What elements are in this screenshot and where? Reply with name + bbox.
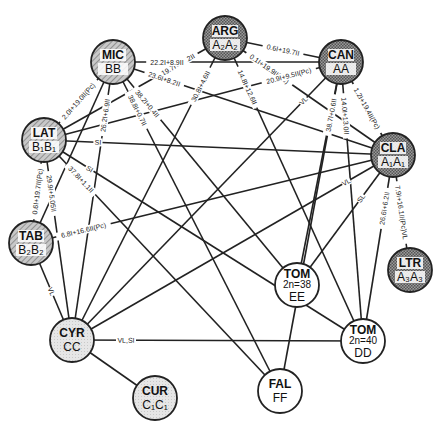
svg-text:VL: VL [47, 286, 57, 297]
edge-label: 7.9I+16.1II(Pc)VL [392, 181, 410, 245]
edge-label: SI [93, 138, 103, 146]
svg-text:SI: SI [94, 139, 101, 146]
svg-text:14.8I+12.6II: 14.8I+12.6II [236, 69, 258, 106]
node-fal: FALFF [258, 369, 302, 413]
edge-label: 26.2I+6.9II [98, 94, 112, 136]
svg-text:FF: FF [273, 391, 288, 405]
svg-text:LAT: LAT [33, 126, 56, 140]
svg-text:EE: EE [289, 290, 305, 304]
edge-label: SL [355, 192, 367, 204]
svg-text:VL,SI: VL,SI [117, 337, 134, 344]
svg-text:TAB: TAB [19, 229, 43, 243]
svg-text:A₃A₃: A₃A₃ [397, 270, 423, 284]
edge-label: SI [84, 163, 96, 175]
node-cyr: CYRCC [50, 318, 94, 362]
edge-label-layer: 0.6I+19.7II0.1I+19.9II(Pc)14.8I+12.6II19… [30, 42, 410, 344]
node-lat: LATB₁B₁ [22, 118, 66, 162]
svg-text:2n=40: 2n=40 [349, 335, 378, 346]
svg-text:DD: DD [354, 346, 372, 360]
edge-cyr-tom_dd [72, 340, 363, 341]
svg-text:AA: AA [333, 62, 349, 76]
edge-label: 1.2I+19.4II(Pc) [349, 82, 384, 135]
svg-text:CAN: CAN [328, 48, 354, 62]
node-tab: TABB₂B₂ [9, 221, 53, 265]
svg-text:0.6I+19.7II: 0.6I+19.7II [266, 43, 300, 57]
svg-text:2.0I+19.0II(Pc): 2.0I+19.0II(Pc) [61, 81, 98, 121]
node-mic: MICBB [91, 40, 135, 84]
edge-label: 2.0I+19.0II(Pc) [57, 77, 100, 125]
svg-text:14.0I+13.0II: 14.0I+13.0II [340, 97, 350, 135]
edge-cla-tom_dd [363, 155, 393, 341]
svg-text:0.6I+19.7II(Pc): 0.6I+19.7II(Pc) [31, 168, 45, 215]
svg-text:A₁A₁: A₁A₁ [381, 155, 405, 169]
svg-text:2n=38: 2n=38 [283, 279, 312, 290]
edge-label: VL,SI [116, 336, 136, 344]
edge-label: 6.8I+16.6II(Pc) [55, 220, 111, 241]
node-cla: CLAA₁A₁ [371, 133, 415, 177]
node-tom-dd: TOM2n=40DD [341, 319, 385, 363]
edge-label: 0.6I+19.7II [262, 42, 304, 58]
svg-text:CYR: CYR [59, 326, 85, 340]
node-layer: ARGA₂A₂MICBBCANAALATB₁B₁CLAA₁A₁TABB₂B₂LT… [9, 16, 432, 420]
edge-label: 26.6I+6.2II [377, 187, 392, 229]
node-ltr: LTRA₃A₃ [388, 248, 432, 292]
edge-label: 14.0I+13.0II [339, 93, 351, 139]
svg-text:C₁C₁: C₁C₁ [142, 398, 167, 412]
node-can: CANAA [319, 40, 363, 84]
svg-text:6.8I+16.6II(Pc): 6.8I+16.6II(Pc) [60, 221, 107, 240]
edge-label: VL [46, 286, 57, 298]
svg-text:LTR: LTR [399, 256, 422, 270]
svg-text:MIC: MIC [102, 48, 124, 62]
svg-text:B₁B₁: B₁B₁ [32, 140, 56, 154]
svg-text:26.2I+6.9II: 26.2I+6.9II [99, 98, 111, 132]
genome-network-diagram: 0.6I+19.7II0.1I+19.9II(Pc)14.8I+12.6II19… [0, 0, 435, 429]
svg-text:1.2I+19.4II(Pc): 1.2I+19.4II(Pc) [352, 87, 381, 131]
svg-text:CUR: CUR [142, 384, 168, 398]
edge-label: 0.6I+19.7II(Pc) [30, 163, 45, 220]
svg-text:B₂B₂: B₂B₂ [18, 243, 44, 257]
svg-text:26.6I+6.2II: 26.6I+6.2II [378, 191, 390, 225]
svg-text:CLA: CLA [381, 141, 406, 155]
svg-text:A₂A₂: A₂A₂ [212, 38, 238, 52]
svg-text:22.2I+8.9II: 22.2I+8.9II [150, 59, 183, 66]
svg-text:CC: CC [63, 340, 81, 354]
svg-text:ARG: ARG [212, 24, 239, 38]
svg-text:7.9I+16.1II(Pc)VL: 7.9I+16.1II(Pc)VL [393, 185, 409, 240]
svg-text:FAL: FAL [269, 377, 292, 391]
node-tom-ee: TOM2n=38EE [275, 263, 319, 307]
edge-label: 30.8I+4.6II [188, 66, 214, 107]
edge-label: 14.8I+12.6II [234, 65, 260, 109]
svg-text:BB: BB [105, 62, 121, 76]
node-arg: ARGA₂A₂ [203, 16, 247, 60]
edge-label: 22.2I+8.9II [146, 58, 188, 66]
node-cur: CURC₁C₁ [133, 376, 177, 420]
